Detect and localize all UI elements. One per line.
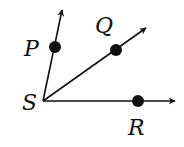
ray-sq <box>43 28 146 101</box>
point-r <box>132 95 144 107</box>
label-r: R <box>127 115 145 140</box>
label-s: S <box>22 90 37 115</box>
label-q: Q <box>95 13 113 38</box>
point-q <box>110 44 122 56</box>
ray-sp <box>43 10 62 101</box>
point-p <box>49 41 61 53</box>
rays-diagram: P Q S R <box>0 0 184 147</box>
label-p: P <box>23 36 40 61</box>
